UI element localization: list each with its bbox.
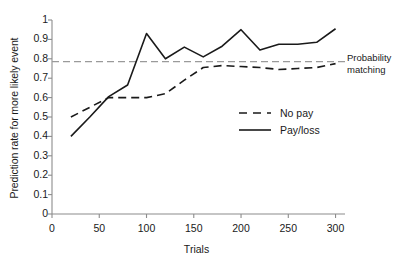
y-axis-title: Prediction rate for more likely event xyxy=(8,18,20,218)
legend-label-no-pay: No pay xyxy=(280,107,313,119)
x-axis-tick-label: 100 xyxy=(127,222,167,234)
y-axis-tick-label: 0.2 xyxy=(22,169,48,180)
x-axis-tick-label: 250 xyxy=(268,222,308,234)
probability-matching-label: Probability matching xyxy=(347,52,403,75)
legend-item-pay-loss: Pay/loss xyxy=(238,121,320,138)
y-axis-tick-label: 0.5 xyxy=(22,111,48,122)
y-axis-tick-label: 0.1 xyxy=(22,189,48,200)
x-axis-tick-label: 150 xyxy=(174,222,214,234)
legend-swatch-dashed xyxy=(238,107,272,119)
y-axis-tick-label: 0.9 xyxy=(22,33,48,44)
y-axis-tick-label: 0.3 xyxy=(22,150,48,161)
x-axis-title: Trials xyxy=(52,243,341,255)
y-axis-tick-marks xyxy=(48,20,52,214)
x-axis-tick-marks xyxy=(52,214,336,218)
x-axis-tick-label: 300 xyxy=(316,222,356,234)
legend-label-pay-loss: Pay/loss xyxy=(280,124,320,136)
y-axis-tick-label: 0.4 xyxy=(22,130,48,141)
probability-matching-label-line1: Probability xyxy=(347,52,391,63)
x-axis-tick-label: 0 xyxy=(32,222,72,234)
y-axis-tick-label: 0.7 xyxy=(22,72,48,83)
y-axis-tick-label: 0.8 xyxy=(22,53,48,64)
chart-legend: No pay Pay/loss xyxy=(238,104,320,138)
y-axis-tick-label: 0.6 xyxy=(22,92,48,103)
legend-item-no-pay: No pay xyxy=(238,104,320,121)
y-axis-tick-label: 1 xyxy=(22,14,48,25)
probability-matching-label-line2: matching xyxy=(347,64,386,75)
x-axis-tick-label: 200 xyxy=(221,222,261,234)
legend-swatch-solid xyxy=(238,124,272,136)
x-axis-tick-label: 50 xyxy=(79,222,119,234)
y-axis-tick-label: 0 xyxy=(22,208,48,219)
chart-figure: 00.10.20.30.40.50.60.70.80.91 0501001502… xyxy=(0,0,403,270)
